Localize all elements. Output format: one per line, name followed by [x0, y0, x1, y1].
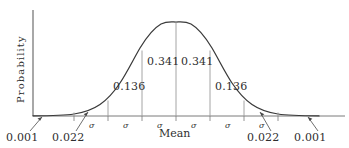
normal-distribution-figure: Probability 0.136 0.341 0.341 0.136 σ σ …: [0, 0, 349, 148]
area-label-minus-2-to-minus-1: 0.136: [113, 81, 146, 92]
area-label-mean-to-plus-1: 0.341: [181, 56, 214, 67]
area-label-plus-1-to-plus-2: 0.136: [215, 81, 248, 92]
arrow-head-left: [84, 112, 88, 116]
arrow-head-far-right: [308, 117, 312, 121]
tail-label-right: 0.022: [247, 132, 280, 143]
sigma-label-2: σ: [123, 122, 128, 130]
tail-label-far-left: 0.001: [6, 132, 39, 143]
chart-canvas: [0, 0, 349, 148]
sigma-label-1: σ: [89, 122, 94, 130]
sigma-label-5: σ: [225, 122, 230, 130]
arrow-head-far-left: [38, 117, 43, 121]
sigma-label-6: σ: [259, 122, 264, 130]
mean-label: Mean: [159, 128, 190, 139]
tail-label-far-right: 0.001: [294, 132, 327, 143]
arrow-head-right: [260, 112, 264, 116]
area-label-minus-1-to-mean: 0.341: [147, 56, 180, 67]
y-axis-label: Probability: [16, 35, 26, 103]
sigma-label-4: σ: [191, 122, 196, 130]
tail-label-left: 0.022: [52, 132, 85, 143]
